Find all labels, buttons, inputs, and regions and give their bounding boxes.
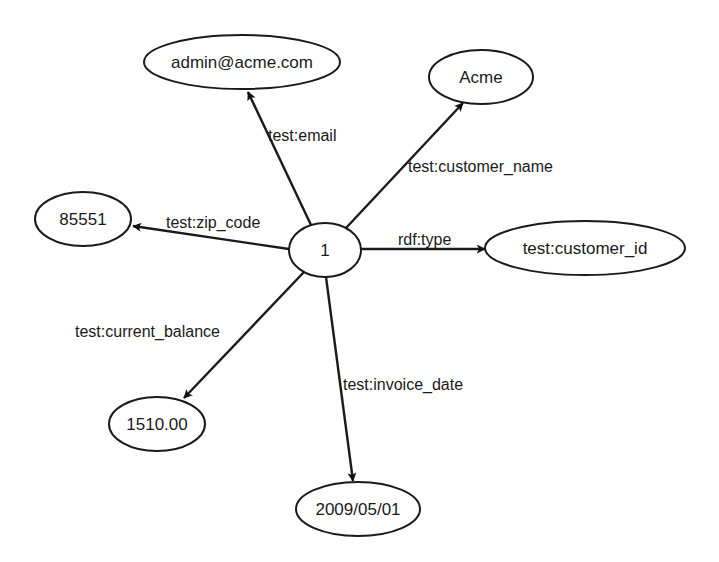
node-invoice: 2009/05/01: [296, 482, 420, 536]
node-name: Acme: [429, 50, 533, 104]
node-label: 85551: [59, 210, 106, 229]
node-label: Acme: [459, 68, 502, 87]
rdf-graph-diagram: test:emailtest:customer_nametest:zip_cod…: [0, 0, 719, 562]
edge-zip: test:zip_code: [133, 214, 289, 249]
node-label: 2009/05/01: [315, 500, 400, 519]
node-label: test:customer_id: [523, 239, 648, 258]
nodes-layer: admin@acme.comAcme85551test:customer_id1…: [35, 35, 685, 536]
edge-label: test:invoice_date: [343, 376, 463, 394]
edge-name: test:customer_name: [346, 103, 553, 228]
center-node: 1: [289, 223, 361, 277]
node-type: test:customer_id: [485, 221, 685, 275]
node-label: admin@acme.com: [171, 53, 313, 72]
edge-label: rdf:type: [398, 231, 451, 248]
node-label: 1510.00: [126, 415, 187, 434]
edge-label: test:zip_code: [166, 214, 260, 232]
center-node-label: 1: [320, 241, 329, 260]
node-balance: 1510.00: [109, 397, 205, 451]
edge-arrow-line: [248, 92, 311, 225]
node-zip: 85551: [35, 192, 131, 246]
edge-label: test:customer_name: [408, 158, 553, 176]
edge-label: test:email: [268, 127, 336, 144]
edge-email: test:email: [248, 92, 336, 225]
node-email: admin@acme.com: [144, 35, 340, 89]
edge-type: rdf:type: [361, 231, 485, 249]
edge-label: test:current_balance: [75, 323, 220, 341]
edge-balance: test:current_balance: [75, 272, 304, 398]
edge-invoice: test:invoice_date: [326, 277, 463, 481]
